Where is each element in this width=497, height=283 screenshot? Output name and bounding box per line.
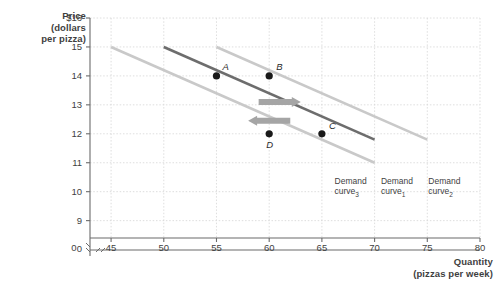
y-tick-label-10: 10 <box>56 186 82 197</box>
y-axis-break-icon <box>86 243 90 252</box>
y-tick-label-9: 9 <box>56 215 82 226</box>
x-tick-label-60: 60 <box>257 242 281 253</box>
point-label-D: D <box>266 139 273 150</box>
demand-curve-label-1: Demandcurve1 <box>381 176 413 201</box>
point-label-C: C <box>329 120 336 131</box>
data-point-C <box>318 130 325 137</box>
x-axis-title-line2: (pizzas per week) <box>413 268 493 279</box>
y-tick-label-13: 13 <box>56 99 82 110</box>
demand-curve-label-line2: curve1 <box>381 186 405 196</box>
y-axis-title-line2: (dollars <box>51 22 86 33</box>
x-tick-label-50: 50 <box>152 242 176 253</box>
point-label-B: B <box>276 61 282 72</box>
demand-curve-label-3: Demandcurve3 <box>335 176 367 201</box>
demand-curve-chart: Price (dollars per pizza) Quantity (pizz… <box>0 0 497 283</box>
data-point-B <box>266 72 273 79</box>
x-tick-label-55: 55 <box>204 242 228 253</box>
demand-curve-label-subscript: 2 <box>449 191 453 198</box>
x-tick-label-65: 65 <box>310 242 334 253</box>
x-axis-title: Quantity (pizzas per week) <box>378 256 493 279</box>
demand-curve-1 <box>164 47 375 140</box>
x-tick-label-80: 80 <box>468 242 492 253</box>
demand-curve-label-line1: Demand <box>335 176 367 186</box>
y-tick-label-14: 14 <box>56 70 82 81</box>
demand-curve-label-line1: Demand <box>428 176 460 186</box>
demand-curve-label-line2: curve3 <box>335 186 359 196</box>
x-axis-title-line1: Quantity <box>454 256 493 267</box>
demand-curve-label-subscript: 3 <box>355 191 359 198</box>
data-point-A <box>213 72 220 79</box>
y-tick-label-15: 15 <box>56 41 82 52</box>
x-tick-label-75: 75 <box>415 242 439 253</box>
demand-curve-label-2: Demandcurve2 <box>428 176 460 201</box>
y-tick-label-11: 11 <box>56 157 82 168</box>
demand-curve-label-line1: Demand <box>381 176 413 186</box>
x-tick-label-45: 45 <box>99 242 123 253</box>
data-point-D <box>266 130 273 137</box>
y-tick-label-12: 12 <box>56 128 82 139</box>
demand-curve-label-subscript: 1 <box>402 191 406 198</box>
point-label-A: A <box>222 61 228 72</box>
demand-curve-2 <box>216 47 427 140</box>
x-tick-label-70: 70 <box>363 242 387 253</box>
x-tick-label-0: 0 <box>62 242 86 253</box>
y-tick-label-16: $16 <box>56 12 82 23</box>
demand-curve-label-line2: curve2 <box>428 186 452 196</box>
